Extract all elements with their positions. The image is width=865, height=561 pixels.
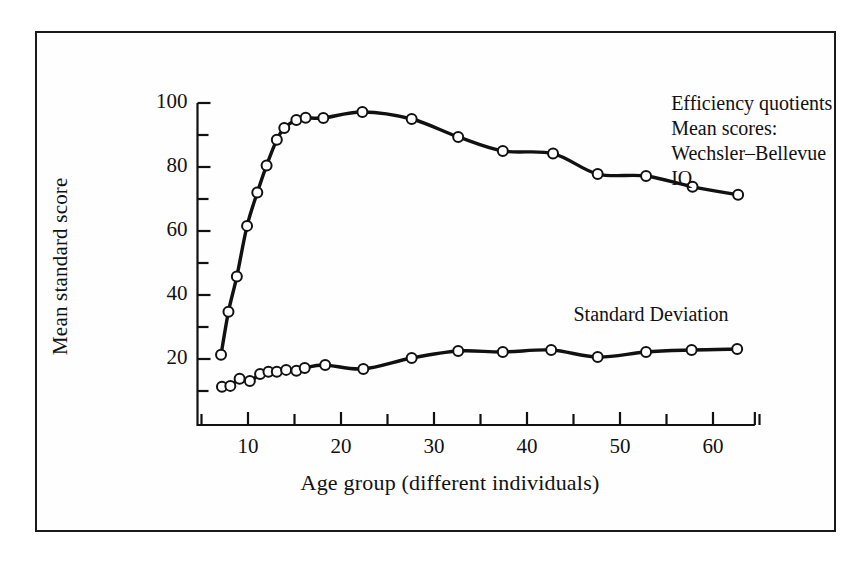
sd-series-annotation-line-1: Standard Deviation	[574, 302, 729, 327]
x-tick-label: 30	[404, 434, 464, 459]
iq-series-annotation: Efficiency quotientsMean scores:Wechsler…	[671, 91, 832, 191]
y-tick-label: 80	[140, 153, 188, 178]
iq-series-annotation-line-3: Wechsler–Bellevue	[671, 141, 832, 166]
y-tick-label: 40	[140, 281, 188, 306]
figure-container: 20406080100102030405060 Mean standard sc…	[0, 0, 865, 561]
iq-series-annotation-line-1: Efficiency quotients	[671, 91, 832, 116]
x-axis-title: Age group (different individuals)	[200, 470, 700, 496]
y-axis-title: Mean standard score	[48, 177, 73, 355]
x-tick-label: 40	[497, 434, 557, 459]
iq-series-annotation-line-2: Mean scores:	[671, 116, 832, 141]
x-tick-label: 10	[218, 434, 278, 459]
sd-series-annotation: Standard Deviation	[574, 302, 729, 327]
y-tick-label: 20	[140, 345, 188, 370]
x-tick-label: 60	[683, 434, 743, 459]
x-tick-label: 20	[311, 434, 371, 459]
iq-series-annotation-line-4: IQ	[671, 166, 832, 191]
y-tick-label: 100	[140, 89, 188, 114]
y-tick-label: 60	[140, 217, 188, 242]
x-tick-label: 50	[590, 434, 650, 459]
